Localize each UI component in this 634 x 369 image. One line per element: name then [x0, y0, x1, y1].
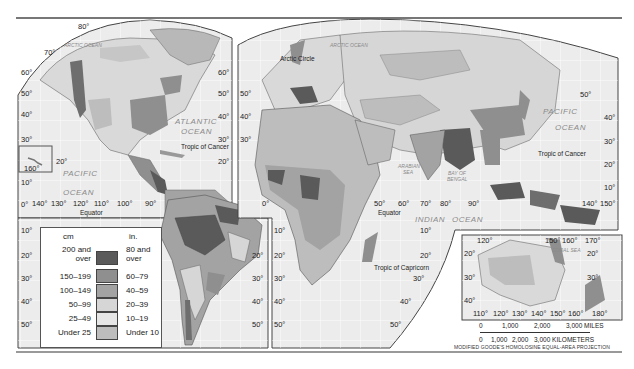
- svg-text:40°: 40°: [400, 297, 411, 306]
- label-indian-ocean-2: OCEAN: [452, 215, 483, 224]
- legend-unit-cm: cm: [63, 232, 74, 241]
- label-arctic-ocean-na: ARCTIC OCEAN: [63, 42, 102, 48]
- svg-text:10°: 10°: [604, 183, 615, 192]
- svg-text:150°: 150°: [550, 309, 566, 318]
- svg-text:20°: 20°: [218, 157, 229, 166]
- svg-text:40°: 40°: [218, 112, 229, 121]
- svg-text:20°: 20°: [420, 251, 431, 260]
- legend-swatch: [96, 284, 118, 298]
- label-atlantic-ocean: ATLANTIC: [174, 117, 217, 126]
- svg-text:110°: 110°: [473, 309, 488, 318]
- svg-text:10°: 10°: [274, 226, 285, 235]
- svg-text:20°: 20°: [21, 251, 32, 260]
- label-arctic-circle: Arctic Circle: [280, 55, 315, 62]
- svg-text:20°: 20°: [604, 160, 615, 169]
- lon-label-150: 150°: [600, 199, 616, 208]
- label-arabian-sea-2: SEA: [403, 169, 414, 175]
- svg-text:130°: 130°: [512, 309, 528, 318]
- label-tropic-of-cancer-west: Tropic of Cancer: [181, 143, 230, 151]
- svg-text:60°: 60°: [21, 68, 32, 77]
- label-tropic-of-cancer-east: Tropic of Cancer: [538, 150, 587, 158]
- svg-text:40°: 40°: [21, 110, 32, 119]
- svg-text:50°: 50°: [21, 89, 32, 98]
- svg-text:120°: 120°: [73, 199, 89, 208]
- svg-text:140°: 140°: [32, 199, 48, 208]
- svg-text:10°: 10°: [21, 226, 32, 235]
- svg-text:180°: 180°: [592, 309, 608, 318]
- svg-text:50°: 50°: [21, 320, 32, 329]
- svg-text:40°: 40°: [252, 297, 263, 306]
- svg-text:30°: 30°: [587, 273, 598, 282]
- svg-text:160°: 160°: [568, 309, 584, 318]
- svg-text:40°: 40°: [240, 112, 251, 121]
- svg-text:90°: 90°: [145, 199, 156, 208]
- legend-swatch: [96, 251, 118, 265]
- label-coral-sea: CORAL SEA: [552, 247, 581, 253]
- label-indian-ocean: INDIAN: [415, 215, 445, 224]
- svg-text:40°: 40°: [274, 297, 285, 306]
- precipitation-legend: cm in. 200 andover 80 andover 150–199 60…: [40, 227, 162, 348]
- legend-unit-in: in.: [129, 232, 137, 241]
- svg-text:160°: 160°: [562, 236, 578, 245]
- svg-text:100°: 100°: [117, 199, 133, 208]
- svg-text:30°: 30°: [252, 274, 263, 283]
- lon-label-70: 70°: [44, 48, 55, 57]
- svg-text:10°: 10°: [21, 178, 32, 187]
- projection-label: MODIFIED GOODE'S HOMOLOSINE EQUAL-AREA P…: [454, 344, 610, 350]
- svg-text:50°: 50°: [374, 199, 385, 208]
- hawaii-lat-label: 20°: [56, 157, 67, 166]
- svg-text:50°: 50°: [252, 320, 263, 329]
- svg-text:50°: 50°: [240, 89, 251, 98]
- svg-text:30°: 30°: [21, 274, 32, 283]
- svg-text:30°: 30°: [413, 274, 424, 283]
- svg-text:60°: 60°: [218, 68, 229, 77]
- svg-text:170°: 170°: [585, 236, 601, 245]
- svg-text:20°: 20°: [274, 251, 285, 260]
- svg-text:120°: 120°: [493, 309, 509, 318]
- svg-text:0°: 0°: [262, 199, 269, 208]
- svg-text:150°: 150°: [545, 236, 561, 245]
- label-pacific-ocean-east: PACIFIC: [543, 107, 577, 116]
- legend-row-200-over: 200 andover 80 andover: [41, 245, 161, 267]
- label-equator-east: Equator: [378, 209, 402, 217]
- scale-bar: 0 1,000 2,000 3,000 MILES 0 1,000 2,000 …: [478, 322, 628, 346]
- label-equator-west: Equator: [80, 209, 104, 217]
- svg-text:50°: 50°: [274, 320, 285, 329]
- svg-text:130°: 130°: [51, 199, 67, 208]
- svg-text:40°: 40°: [604, 113, 615, 122]
- legend-swatch: [96, 269, 118, 283]
- svg-text:30°: 30°: [218, 135, 229, 144]
- svg-text:120°: 120°: [477, 236, 493, 245]
- svg-text:50°: 50°: [390, 320, 401, 329]
- label-bay-of-bengal-2: BENGAL: [447, 176, 468, 182]
- label-tropic-of-capricorn: Tropic of Capricorn: [374, 264, 429, 272]
- svg-text:60°: 60°: [398, 199, 409, 208]
- svg-text:30°: 30°: [274, 274, 285, 283]
- svg-text:30°: 30°: [604, 137, 615, 146]
- legend-swatch: [96, 312, 118, 326]
- legend-swatch: [96, 326, 118, 340]
- svg-text:30°: 30°: [21, 135, 32, 144]
- label-atlantic-ocean-2: OCEAN: [181, 127, 212, 136]
- legend-swatch: [96, 298, 118, 312]
- lon-label-80: 80°: [78, 22, 89, 31]
- svg-text:30°: 30°: [240, 135, 251, 144]
- svg-text:20°: 20°: [252, 251, 263, 260]
- label-pacific-ocean-west: PACIFIC: [63, 169, 97, 178]
- lon-label-140: 140°: [582, 199, 598, 208]
- svg-text:30°: 30°: [464, 273, 475, 282]
- label-pacific-ocean-west-2: OCEAN: [63, 188, 94, 197]
- svg-text:50°: 50°: [580, 90, 591, 99]
- lat-labels-eu-left: 50° 40° 30°: [240, 89, 251, 144]
- hawaii-lon-label: 160°: [24, 164, 40, 173]
- svg-text:140°: 140°: [531, 309, 547, 318]
- svg-text:50°: 50°: [218, 89, 229, 98]
- label-pacific-ocean-east-2: OCEAN: [555, 123, 586, 132]
- svg-text:70°: 70°: [420, 199, 431, 208]
- svg-text:0°: 0°: [21, 200, 28, 209]
- svg-text:20°: 20°: [587, 249, 598, 258]
- svg-text:20°: 20°: [464, 249, 475, 258]
- svg-text:90°: 90°: [468, 199, 479, 208]
- svg-text:80°: 80°: [440, 199, 451, 208]
- svg-text:110°: 110°: [94, 199, 109, 208]
